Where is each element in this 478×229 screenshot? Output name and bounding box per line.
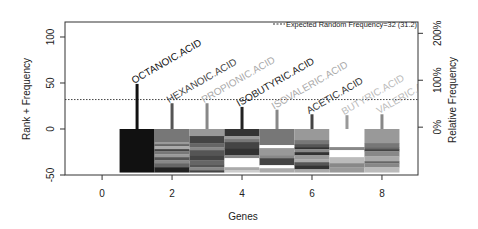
stripe	[329, 167, 364, 172]
x-tick-label: 8	[379, 188, 385, 199]
stripe-blocks	[120, 129, 400, 173]
stripe	[155, 149, 190, 151]
stripe	[364, 143, 399, 147]
stripe-block	[225, 129, 260, 173]
stripe	[295, 165, 330, 169]
stripe	[295, 155, 330, 159]
stripe	[190, 136, 225, 143]
x-tick-label: 4	[239, 188, 245, 199]
stripe	[225, 167, 260, 170]
stripe	[225, 158, 260, 167]
stripe-block	[120, 129, 155, 173]
x-tick-label: 6	[309, 188, 315, 199]
stripe	[364, 156, 399, 161]
stripe	[225, 170, 260, 172]
stripe	[329, 147, 364, 150]
stripe	[260, 158, 295, 165]
chart-figure: OCTANOIC.ACIDHEXANOIC.ACIDPROPIONIC.ACID…	[0, 0, 478, 229]
stripe-block	[295, 129, 330, 173]
stripe	[155, 167, 190, 172]
stripe	[155, 160, 190, 163]
stripe	[190, 167, 225, 170]
y-right-tick-label: 100%	[432, 67, 443, 93]
stripe	[225, 136, 260, 139]
stripe	[260, 148, 295, 155]
y-tick-label: -50	[45, 167, 56, 182]
stripe	[155, 144, 190, 146]
stripe	[329, 129, 364, 147]
stripe	[364, 163, 399, 167]
category-label: OCTANOIC.ACID	[130, 37, 204, 86]
stripe	[155, 151, 190, 154]
stripe	[225, 148, 260, 155]
x-tick-label: 0	[99, 188, 105, 199]
stripe	[295, 159, 330, 162]
y-right-tick-label: 200%	[432, 20, 443, 46]
x-axis-title: Genes	[228, 211, 257, 222]
y-axis-right-title: Relative Frequency	[447, 57, 458, 143]
stripe	[120, 129, 155, 173]
category-labels: OCTANOIC.ACIDHEXANOIC.ACIDPROPIONIC.ACID…	[130, 37, 440, 117]
y-tick-label: 0	[45, 126, 56, 132]
stripe	[295, 162, 330, 165]
stripe	[329, 157, 364, 163]
stripe	[155, 154, 190, 157]
stripe	[295, 144, 330, 147]
stripe	[295, 149, 330, 152]
stripe	[190, 164, 225, 167]
stripe	[295, 147, 330, 149]
stripe	[260, 165, 295, 168]
stripe	[190, 129, 225, 136]
stripe	[190, 170, 225, 172]
stripe	[190, 160, 225, 164]
stripe	[190, 143, 225, 147]
stripe	[295, 169, 330, 172]
stripe	[329, 150, 364, 157]
y-right-tick-label: 0%	[432, 120, 443, 135]
stripe	[295, 140, 330, 144]
lollipop-chart: OCTANOIC.ACIDHEXANOIC.ACIDPROPIONIC.ACID…	[0, 0, 478, 229]
stripe	[225, 155, 260, 158]
stripe-block	[260, 129, 295, 173]
stripe-block	[155, 129, 190, 173]
stripe	[364, 167, 399, 172]
stripe	[190, 150, 225, 155]
stripe	[225, 142, 260, 148]
stripe	[225, 139, 260, 142]
stripe	[155, 129, 190, 142]
stripe	[190, 147, 225, 150]
stripe	[295, 152, 330, 155]
stripe	[155, 142, 190, 144]
stripe	[260, 155, 295, 158]
x-tick-label: 2	[169, 188, 175, 199]
stripe	[329, 163, 364, 167]
legend-label: Expected Random Frequency=32 (31.2)	[286, 20, 417, 29]
stripe	[295, 129, 330, 140]
stripe	[364, 161, 399, 163]
y-axis-title: Rank + Frequency	[21, 58, 32, 140]
stripe	[364, 149, 399, 151]
stripe	[364, 151, 399, 156]
stripe-block	[329, 129, 364, 173]
stripe	[155, 163, 190, 167]
stripe	[155, 146, 190, 149]
stripe	[260, 145, 295, 148]
legend: Expected Random Frequency=32 (31.2)	[273, 20, 417, 29]
stripe	[364, 129, 399, 143]
stripe	[225, 129, 260, 136]
stripe	[260, 129, 295, 145]
y-tick-label: 50	[45, 77, 56, 89]
stripe	[190, 155, 225, 160]
stripe	[155, 157, 190, 160]
stripe	[260, 168, 295, 172]
stripe	[364, 147, 399, 149]
stripe-block	[190, 129, 225, 173]
stripe-block	[364, 129, 399, 173]
y-tick-label: 100	[45, 28, 56, 45]
